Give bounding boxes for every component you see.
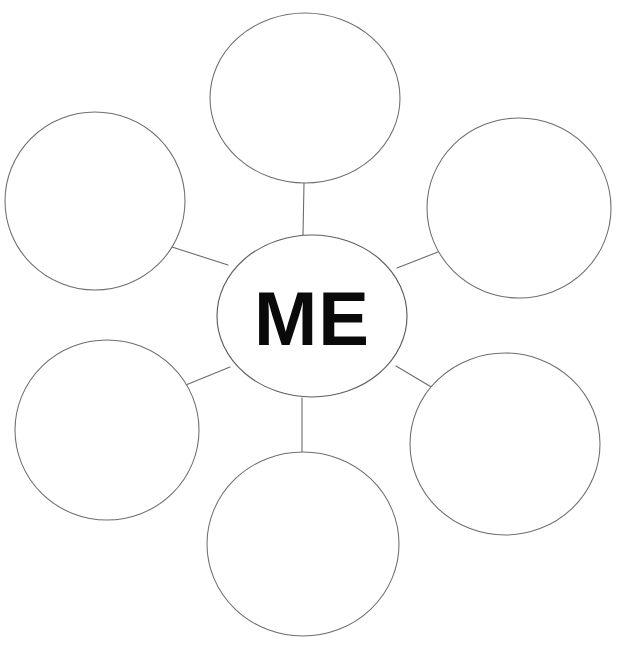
satellite-bubble-bottom-left[interactable] (15, 340, 199, 520)
satellite-bubble-bottom-left-outline[interactable] (15, 340, 199, 520)
center-bubble[interactable]: ME (217, 235, 407, 397)
satellite-bubble-bottom[interactable] (207, 452, 399, 636)
connector-center-to-top (303, 183, 304, 235)
satellite-bubble-top-left-outline[interactable] (5, 112, 185, 290)
connector-center-to-top-left (172, 247, 228, 265)
satellite-bubble-top-right[interactable] (427, 118, 611, 298)
satellite-bubble-top[interactable] (210, 13, 400, 183)
satellite-bubble-bottom-right[interactable] (410, 353, 600, 535)
satellite-bubble-bottom-right-outline[interactable] (410, 353, 600, 535)
satellite-bubble-top-right-outline[interactable] (427, 118, 611, 298)
satellite-bubble-top-left[interactable] (5, 112, 185, 290)
connector-center-to-top-right (397, 250, 443, 268)
bubble-map-canvas: ME (0, 0, 622, 647)
center-bubble-label: ME (254, 276, 370, 361)
bubble-map-diagram: ME (0, 0, 622, 647)
satellite-bubble-top-outline[interactable] (210, 13, 400, 183)
satellite-bubble-bottom-outline[interactable] (207, 452, 399, 636)
